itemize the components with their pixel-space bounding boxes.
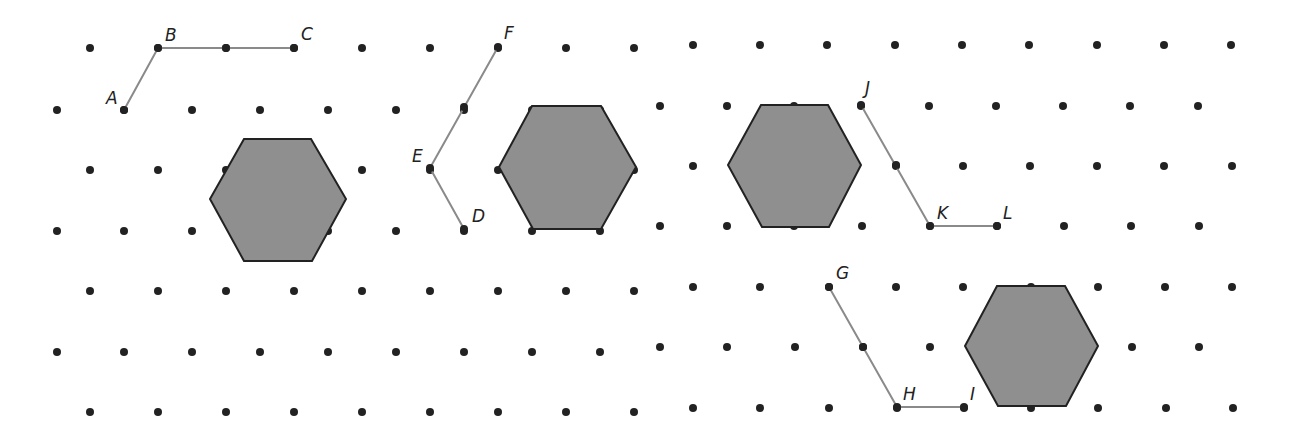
grid-dot	[358, 166, 366, 174]
grid-dot	[756, 404, 764, 412]
hexagon-4	[965, 286, 1098, 406]
grid-dot	[53, 106, 61, 114]
vertex-dot	[154, 44, 162, 52]
grid-dot	[1160, 162, 1168, 170]
grid-dot	[188, 106, 196, 114]
grid-dot	[494, 287, 502, 295]
grid-dot	[992, 102, 1000, 110]
grid-dot	[791, 343, 799, 351]
grid-dot	[426, 408, 434, 416]
vertex-dot	[222, 44, 230, 52]
grid-dot	[392, 227, 400, 235]
point-label-f: F	[504, 23, 514, 43]
grid-dot	[86, 287, 94, 295]
point-label-j: J	[862, 78, 870, 98]
grid-dot	[1059, 102, 1067, 110]
grid-dot	[188, 348, 196, 356]
grid-dot	[358, 44, 366, 52]
grid-dot	[154, 408, 162, 416]
grid-dot	[1128, 343, 1136, 351]
grid-dot	[959, 283, 967, 291]
grid-dot	[1126, 102, 1134, 110]
grid-dot	[1227, 41, 1235, 49]
grid-dot	[1127, 222, 1135, 230]
point-label-k: K	[937, 203, 950, 223]
vertex-dot	[120, 106, 128, 114]
vertex-dot	[926, 222, 934, 230]
grid-dot	[86, 166, 94, 174]
hexagon-1	[210, 139, 346, 261]
vertex-dot	[460, 103, 468, 111]
grid-dot	[290, 408, 298, 416]
grid-dot	[256, 348, 264, 356]
grid-dot	[630, 287, 638, 295]
vertex-dot	[460, 225, 468, 233]
grid-dot	[53, 227, 61, 235]
grid-dot	[154, 166, 162, 174]
path-abc	[120, 44, 298, 114]
grid-dot	[392, 106, 400, 114]
isometric-dot-grid-diagram: ABCDEFGHIJKL	[0, 0, 1296, 436]
grid-dot	[256, 106, 264, 114]
grid-dot	[222, 287, 230, 295]
segment-line	[124, 48, 294, 110]
point-label-e: E	[412, 146, 423, 166]
grid-dot	[358, 408, 366, 416]
grid-dot	[86, 408, 94, 416]
grid-dot	[630, 44, 638, 52]
grid-dot	[858, 222, 866, 230]
grid-dot	[494, 408, 502, 416]
grid-dot	[689, 283, 697, 291]
vertex-dot	[494, 43, 502, 51]
grid-dot	[528, 348, 536, 356]
grid-dot	[358, 287, 366, 295]
point-label-c: C	[301, 24, 313, 44]
grid-dot	[1162, 404, 1170, 412]
grid-dot	[1060, 222, 1068, 230]
grid-dot	[1195, 343, 1203, 351]
grid-dot	[892, 283, 900, 291]
grid-dot	[1094, 404, 1102, 412]
vertex-dot	[290, 44, 298, 52]
grid-dot	[154, 287, 162, 295]
grid-dot	[392, 348, 400, 356]
grid-dot	[120, 348, 128, 356]
grid-dot	[290, 287, 298, 295]
grid-dot	[222, 408, 230, 416]
vertex-dot	[825, 283, 833, 291]
grid-dot	[596, 348, 604, 356]
hexagons	[210, 105, 1098, 406]
path-ghi	[825, 283, 968, 411]
grid-dot	[656, 102, 664, 110]
grid-dot	[630, 408, 638, 416]
point-label-b: B	[165, 25, 177, 45]
grid-dot	[1025, 41, 1033, 49]
grid-dot	[756, 283, 764, 291]
grid-dot	[1195, 222, 1203, 230]
grid-dot	[723, 102, 731, 110]
point-label-d: D	[472, 206, 485, 226]
grid-dot	[925, 102, 933, 110]
hexagon-3	[728, 105, 861, 227]
grid-dot	[562, 287, 570, 295]
vertex-dot	[893, 403, 901, 411]
grid-dot	[723, 222, 731, 230]
point-label-g: G	[836, 263, 849, 283]
vertex-dot	[960, 403, 968, 411]
vertex-dot	[857, 101, 865, 109]
vertex-dot	[993, 222, 1001, 230]
grid-dot	[324, 348, 332, 356]
grid-dot	[1094, 283, 1102, 291]
grid-dot	[1160, 41, 1168, 49]
grid-dot	[1026, 162, 1034, 170]
vertex-dot	[892, 161, 900, 169]
grid-dot	[1228, 283, 1236, 291]
grid-dot	[825, 404, 833, 412]
grid-dot	[562, 408, 570, 416]
grid-dot	[689, 41, 697, 49]
grid-dot	[823, 41, 831, 49]
point-label-i: I	[970, 384, 975, 404]
point-label-a: A	[105, 88, 118, 108]
grid-dot	[656, 222, 664, 230]
grid-dot	[1228, 162, 1236, 170]
